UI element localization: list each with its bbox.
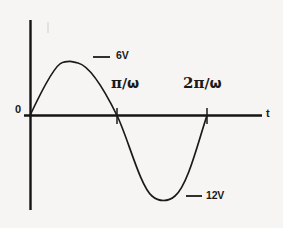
- two-pi-symbol: 2π: [183, 74, 204, 92]
- pi-symbol: π: [111, 74, 122, 92]
- peak-voltage-label: 6V: [116, 50, 128, 61]
- scan-artifact: [47, 22, 49, 33]
- tick-label-pi-over-omega: π/ω: [111, 76, 139, 91]
- t-axis-label: t: [266, 108, 270, 119]
- origin-label: 0: [15, 104, 21, 115]
- sine-wave-voltage-chart: [0, 0, 283, 228]
- omega-symbol: ω: [210, 75, 222, 91]
- chart-background: [0, 0, 283, 228]
- omega-symbol: ω: [127, 75, 139, 91]
- tick-label-two-pi-over-omega: 2π/ω: [183, 76, 222, 91]
- trough-voltage-label: 12V: [206, 190, 224, 201]
